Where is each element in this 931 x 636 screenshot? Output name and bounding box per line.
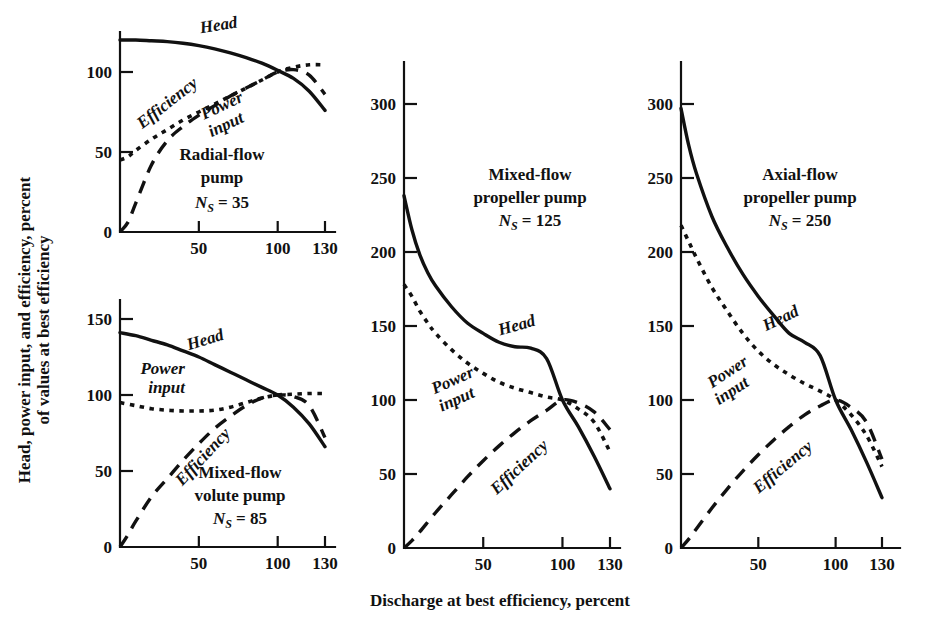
curve-label-head: Head [197, 13, 239, 38]
y-axis-title: Head, power input, and efficiency, perce… [15, 177, 53, 484]
axis-lines [120, 300, 335, 547]
specific-speed-label: NS= 35 [194, 193, 249, 215]
specific-speed-value: = 125 [522, 211, 561, 230]
y-tick-label: 150 [648, 317, 674, 336]
panel-title-line1: Mixed-flow [198, 463, 282, 482]
panel-title-line2: propeller pump [743, 188, 856, 207]
y-tick-label: 0 [388, 539, 397, 558]
x-tick-label: 130 [597, 555, 623, 574]
chart-panel-radial-flow-pump: 05010050100130HeadEfficiencyPowerinputRa… [87, 13, 338, 258]
pump-performance-figure: 05010050100130HeadEfficiencyPowerinputRa… [0, 0, 931, 636]
y-tick-label: 100 [87, 63, 113, 82]
x-tick-label: 50 [750, 555, 767, 574]
y-tick-label: 300 [648, 95, 674, 114]
specific-speed-subscript: S [207, 201, 214, 215]
x-tick-label: 50 [190, 554, 207, 573]
y-tick-label: 0 [665, 539, 674, 558]
specific-speed-symbol: N [194, 193, 208, 212]
specific-speed-subscript: S [781, 219, 788, 233]
specific-speed-symbol: N [498, 211, 512, 230]
curve-head [404, 196, 610, 489]
curve-label-power-input-line2: input [148, 378, 186, 397]
chart-panels-group: 05010050100130HeadEfficiencyPowerinputRa… [87, 13, 901, 574]
specific-speed-symbol: N [768, 211, 782, 230]
y-axis-title-line2: of values at best efficiency [34, 235, 53, 424]
y-tick-label: 100 [371, 391, 397, 410]
curve-label-head: Head [495, 311, 538, 340]
x-tick-label: 50 [475, 555, 492, 574]
x-tick-label: 130 [312, 554, 338, 573]
chart-panel-axial-flow-propeller-pump: 05010015020025030050100130HeadEfficiency… [648, 62, 901, 574]
y-tick-label: 200 [371, 243, 397, 262]
x-tick-label: 100 [823, 555, 849, 574]
curve-label-head: Head [183, 325, 226, 355]
specific-speed-label: NS= 85 [212, 509, 267, 531]
panel-title-line2: volute pump [194, 486, 285, 505]
curve-label-efficiency: Efficiency [132, 73, 201, 133]
y-tick-label: 150 [371, 317, 397, 336]
y-tick-label: 100 [87, 386, 113, 405]
x-tick-label: 100 [265, 554, 291, 573]
y-tick-label: 0 [104, 538, 113, 557]
panel-title-line2: pump [201, 168, 244, 187]
y-tick-label: 50 [95, 143, 112, 162]
y-tick-label: 250 [648, 169, 674, 188]
y-tick-label: 200 [648, 243, 674, 262]
y-axis-title-line1: Head, power input, and efficiency, perce… [15, 177, 34, 484]
specific-speed-label: NS= 250 [768, 211, 831, 233]
curve-label-efficiency: Efficiency [748, 436, 816, 497]
y-tick-label: 50 [379, 465, 396, 484]
y-tick-label: 100 [648, 391, 674, 410]
x-tick-label: 100 [265, 239, 291, 258]
specific-speed-symbol: N [212, 509, 226, 528]
x-tick-label: 50 [190, 239, 207, 258]
panel-title-line1: Mixed-flow [488, 165, 572, 184]
chart-panel-mixed-flow-volute-pump: 05010015050100130HeadEfficiencyPowerinpu… [87, 300, 338, 573]
panel-title-line2: propeller pump [473, 188, 586, 207]
specific-speed-value: = 85 [236, 509, 267, 528]
y-tick-label: 0 [104, 223, 113, 242]
specific-speed-value: = 250 [792, 211, 831, 230]
specific-speed-value: = 35 [218, 193, 249, 212]
x-tick-label: 100 [550, 555, 576, 574]
x-tick-label: 130 [869, 555, 895, 574]
specific-speed-label: NS= 125 [498, 211, 561, 233]
curve-label-power-input: Power [139, 359, 185, 378]
specific-speed-subscript: S [225, 517, 232, 531]
y-tick-label: 150 [87, 310, 113, 329]
y-tick-label: 300 [371, 95, 397, 114]
panel-title-line1: Radial-flow [180, 145, 266, 164]
x-axis-title: Discharge at best efficiency, percent [370, 591, 630, 610]
chart-panel-mixed-flow-propeller-pump: 05010015020025030050100130HeadEfficiency… [371, 62, 623, 574]
x-tick-label: 130 [312, 239, 338, 258]
y-tick-label: 250 [371, 169, 397, 188]
y-tick-label: 50 [95, 462, 112, 481]
panel-title-line1: Axial-flow [762, 165, 838, 184]
specific-speed-subscript: S [511, 219, 518, 233]
y-tick-label: 50 [656, 465, 673, 484]
curve-label-efficiency: Efficiency [486, 435, 552, 499]
